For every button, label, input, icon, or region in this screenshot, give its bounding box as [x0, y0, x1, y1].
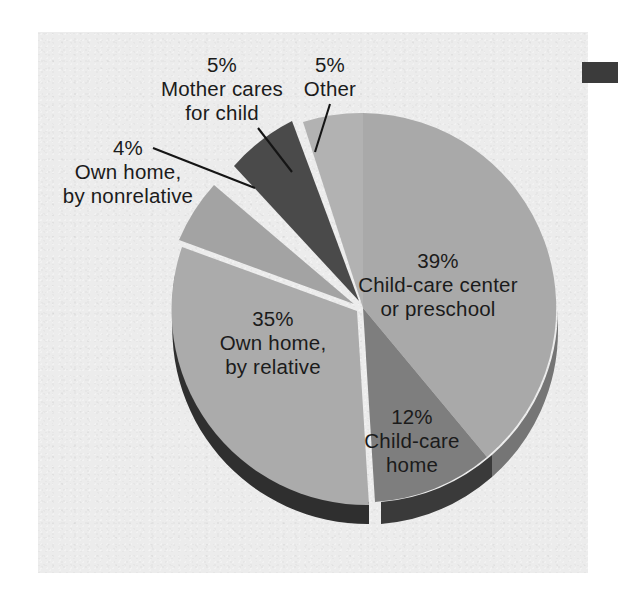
label-other-name-line1: Other — [304, 77, 356, 100]
label-other: 5% Other — [304, 53, 356, 100]
label-mother-cares-name-line2: for child — [185, 101, 259, 124]
label-mother-cares-percent: 5% — [207, 53, 237, 76]
label-child-care-center-percent: 39% — [417, 249, 459, 272]
label-child-care-center-name-line1: Child-care center — [358, 273, 518, 296]
pie-chart-figure: 5% Other 5% Mother cares for child 4% Ow… — [0, 0, 618, 600]
label-own-home-relative-name-line1: Own home, — [220, 331, 327, 354]
label-child-care-home-percent: 12% — [391, 405, 433, 428]
label-own-home-nonrelative-name-line2: by nonrelative — [63, 184, 193, 207]
label-own-home-nonrelative-name-line1: Own home, — [75, 160, 182, 183]
label-child-care-center-name-line2: or preschool — [380, 297, 495, 320]
pie-chart-svg: 5% Other 5% Mother cares for child 4% Ow… — [0, 0, 618, 600]
label-other-percent: 5% — [315, 53, 345, 76]
label-own-home-relative-name-line2: by relative — [225, 355, 321, 378]
label-mother-cares-for-child: 5% Mother cares for child — [161, 53, 283, 124]
label-own-home-nonrelative: 4% Own home, by nonrelative — [63, 136, 193, 207]
label-child-care-home-name-line1: Child-care — [364, 429, 459, 452]
label-mother-cares-name-line1: Mother cares — [161, 77, 283, 100]
label-child-care-home-name-line2: home — [386, 453, 438, 476]
label-own-home-relative-percent: 35% — [252, 307, 294, 330]
label-own-home-nonrelative-percent: 4% — [113, 136, 143, 159]
